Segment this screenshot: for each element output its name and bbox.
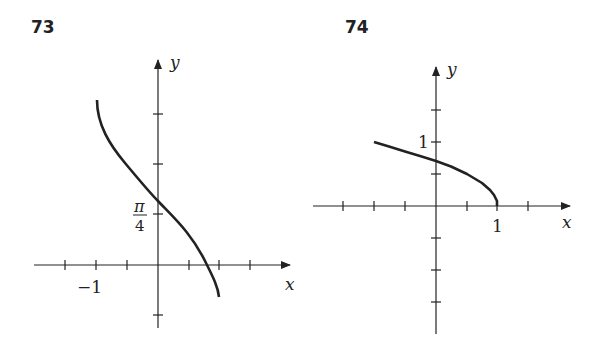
graphs-canvas: y x −1 π 4 y x 1 1 — [0, 0, 593, 346]
graph-74-y-tick-label: 1 — [418, 132, 429, 152]
graph-74-x-tick-label: 1 — [492, 216, 503, 236]
graph-73: y x −1 π 4 — [34, 52, 295, 328]
graph-73-x-label: x — [285, 274, 295, 294]
graph-74: y x 1 1 — [313, 59, 572, 334]
graph-74-x-label: x — [562, 212, 572, 232]
graph-73-y-tick-label-num: π — [133, 197, 145, 216]
graph-73-y-tick-label-den: 4 — [135, 217, 145, 235]
graph-73-y-label: y — [169, 52, 180, 72]
graph-73-x-tick-label: −1 — [77, 277, 102, 297]
graph-74-y-label: y — [446, 59, 457, 79]
